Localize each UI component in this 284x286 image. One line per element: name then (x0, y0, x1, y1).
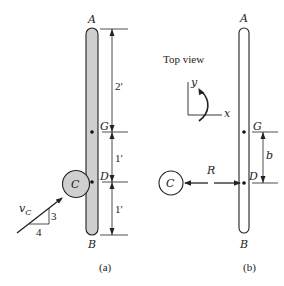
label-d-a: D (99, 170, 109, 183)
rotation-arrow-icon (199, 91, 208, 121)
label-d-b: D (248, 170, 258, 183)
caption-a: (a) (99, 261, 112, 274)
axis-x-label: x (224, 107, 231, 120)
label-a-top-b: A (239, 12, 248, 25)
dim-b-label: b (266, 149, 273, 162)
dim-db-label: 1′ (115, 203, 123, 215)
figure-b: Top view y x A G D B b C (159, 12, 278, 274)
label-a-top: A (87, 13, 96, 26)
point-g-dot-b (242, 130, 246, 134)
label-b-bottom-a: B (87, 238, 96, 251)
reaction-label: R (206, 164, 215, 177)
point-g-dot-a (90, 130, 94, 134)
axis-y-label: y (190, 76, 198, 89)
diagram-canvas: A G D B 2′ 1′ 1′ C (0, 0, 284, 286)
slope-run-label: 4 (36, 226, 42, 238)
figure-a: A G D B 2′ 1′ 1′ C (17, 13, 128, 274)
label-g-a: G (100, 120, 109, 133)
velocity-label: vC (19, 202, 31, 217)
label-g-b: G (253, 120, 262, 133)
slope-rise-label: 3 (51, 210, 57, 222)
point-d-dot-a (90, 180, 94, 184)
disk-c-label-a: C (71, 178, 80, 191)
dim-gd-label: 1′ (115, 152, 123, 164)
dim-ag-label: 2′ (115, 80, 123, 92)
point-d-dot-b (242, 181, 246, 185)
top-view-label: Top view (163, 53, 204, 65)
caption-b: (b) (243, 261, 256, 274)
disk-c-label-b: C (166, 177, 175, 190)
label-b-bottom-b: B (239, 238, 248, 251)
